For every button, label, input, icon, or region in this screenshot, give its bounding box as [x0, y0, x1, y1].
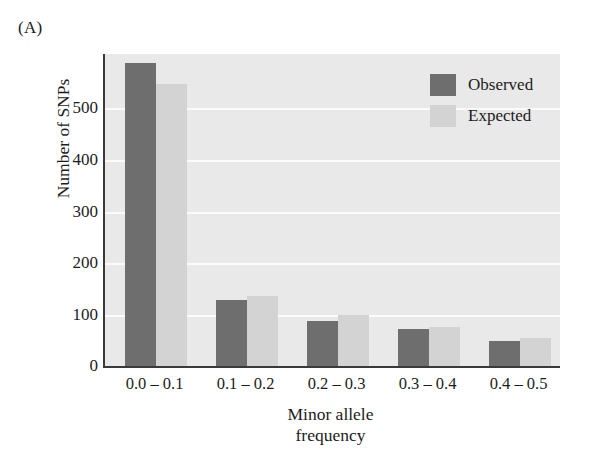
bar-observed-0 — [125, 63, 156, 367]
bar-expected-2 — [338, 315, 369, 367]
x-tick-label-0: 0.0 – 0.1 — [109, 374, 200, 394]
x-axis-title-line2: frequency — [103, 425, 558, 446]
bar-expected-4 — [520, 338, 551, 367]
y-tick-label: 200 — [44, 253, 98, 273]
legend: Observed Expected — [430, 74, 580, 136]
x-tick-label-4: 0.4 – 0.5 — [473, 374, 564, 394]
bar-observed-1 — [216, 300, 247, 367]
bar-observed-2 — [307, 321, 338, 367]
bar-observed-4 — [489, 341, 520, 367]
legend-item-expected: Expected — [430, 105, 580, 127]
x-axis-line — [103, 366, 560, 368]
figure-panel-a: (A) Number of SNPs 500 400 300 200 100 0 — [0, 0, 606, 472]
x-tick-label-3: 0.3 – 0.4 — [382, 374, 473, 394]
legend-swatch-observed-icon — [430, 74, 456, 96]
legend-item-observed: Observed — [430, 74, 580, 96]
y-axis-tick-labels: 500 400 300 200 100 0 — [40, 0, 98, 472]
y-tick-label: 400 — [44, 150, 98, 170]
x-axis-title: Minor allele frequency — [103, 404, 558, 446]
y-tick-label: 300 — [44, 202, 98, 222]
x-axis-title-line1: Minor allele — [103, 404, 558, 425]
y-tick-label: 0 — [44, 356, 98, 376]
bar-group-2 — [293, 54, 384, 367]
bar-group-0 — [111, 54, 202, 367]
y-tick-label: 100 — [44, 305, 98, 325]
bar-group-1 — [202, 54, 293, 367]
bar-expected-1 — [247, 296, 278, 367]
legend-swatch-expected-icon — [430, 105, 456, 127]
bar-observed-3 — [398, 329, 429, 367]
y-tick-label: 500 — [44, 98, 98, 118]
x-tick-label-1: 0.1 – 0.2 — [200, 374, 291, 394]
x-tick-label-2: 0.2 – 0.3 — [291, 374, 382, 394]
bar-expected-3 — [429, 327, 460, 367]
legend-label-observed: Observed — [468, 75, 533, 95]
legend-label-expected: Expected — [468, 106, 531, 126]
bar-expected-0 — [156, 84, 187, 367]
panel-letter: (A) — [18, 18, 43, 38]
